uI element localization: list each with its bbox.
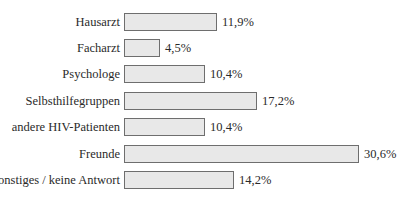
bar-row: Freunde 30,6% bbox=[0, 145, 403, 163]
bar-row: Facharzt 4,5% bbox=[0, 39, 403, 57]
bar-row: andere HIV-Patienten 10,4% bbox=[0, 118, 403, 136]
value-label: 10,4% bbox=[210, 65, 242, 83]
bar-row: Hausarzt 11,9% bbox=[0, 13, 403, 31]
category-label: Freunde bbox=[79, 145, 120, 163]
category-label: Facharzt bbox=[77, 39, 120, 57]
bar bbox=[124, 118, 205, 136]
bar-row: Sonstiges / keine Antwort 14,2% bbox=[0, 171, 403, 189]
value-label: 10,4% bbox=[210, 118, 242, 136]
category-label: Psychologe bbox=[62, 65, 120, 83]
value-label: 14,2% bbox=[239, 171, 271, 189]
bar bbox=[124, 92, 257, 110]
bar-row: Selbsthilfegruppen 17,2% bbox=[0, 92, 403, 110]
bar bbox=[124, 13, 217, 31]
bar bbox=[124, 171, 234, 189]
bar-row: Psychologe 10,4% bbox=[0, 65, 403, 83]
category-label: Hausarzt bbox=[76, 13, 120, 31]
value-label: 17,2% bbox=[262, 92, 294, 110]
bar bbox=[124, 65, 205, 83]
category-label: Selbsthilfegruppen bbox=[26, 92, 120, 110]
category-label: andere HIV-Patienten bbox=[12, 118, 120, 136]
category-label: Sonstiges / keine Antwort bbox=[0, 171, 120, 189]
bar bbox=[124, 145, 359, 163]
value-label: 11,9% bbox=[222, 13, 254, 31]
bar bbox=[124, 39, 160, 57]
horizontal-bar-chart: Hausarzt 11,9% Facharzt 4,5% Psychologe … bbox=[0, 0, 403, 211]
value-label: 30,6% bbox=[364, 145, 396, 163]
value-label: 4,5% bbox=[165, 39, 191, 57]
